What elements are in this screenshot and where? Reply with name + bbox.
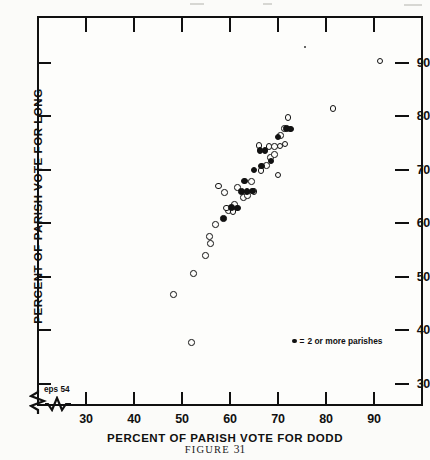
data-point bbox=[234, 205, 241, 212]
data-point bbox=[190, 270, 197, 277]
y-tick-label-40: 40 bbox=[397, 324, 430, 337]
data-point bbox=[258, 163, 265, 170]
x-tick-top-80 bbox=[325, 18, 327, 32]
y-tick-80 bbox=[37, 115, 51, 117]
figure-caption: FIGURE 31 bbox=[0, 443, 430, 455]
legend-filled-dot-icon bbox=[292, 339, 297, 344]
data-point bbox=[220, 215, 227, 222]
x-tick-label-40: 40 bbox=[117, 413, 151, 426]
data-point bbox=[262, 147, 269, 154]
data-point bbox=[248, 178, 255, 185]
data-point bbox=[330, 105, 337, 112]
data-point bbox=[202, 252, 209, 259]
x-tick-top-70 bbox=[277, 18, 279, 32]
x-tick-top-90 bbox=[373, 18, 375, 32]
data-point bbox=[287, 126, 294, 133]
legend-label: 2 or more parishes bbox=[308, 336, 383, 346]
x-tick-top-30 bbox=[85, 18, 87, 32]
x-tick-top-50 bbox=[181, 18, 183, 32]
y-tick-label-80: 80 bbox=[397, 110, 430, 123]
x-tick-30 bbox=[85, 392, 87, 406]
y-tick-60 bbox=[37, 222, 51, 224]
x-tick-label-90: 90 bbox=[357, 413, 391, 426]
legend-equals-sign: = bbox=[300, 336, 305, 346]
data-point bbox=[221, 189, 228, 196]
data-point bbox=[206, 233, 213, 240]
scan-artifact bbox=[404, 4, 422, 6]
legend: = 2 or more parishes bbox=[292, 336, 382, 346]
figure-caption-number: 31 bbox=[234, 443, 246, 455]
y-tick-90 bbox=[37, 62, 51, 64]
y-tick-40 bbox=[37, 329, 51, 331]
x-tick-label-60: 60 bbox=[213, 413, 247, 426]
scan-artifact bbox=[263, 3, 272, 5]
x-tick-50 bbox=[181, 392, 183, 406]
data-point bbox=[249, 188, 256, 195]
x-tick-40 bbox=[133, 392, 135, 406]
y-tick-50 bbox=[37, 276, 51, 278]
data-point bbox=[207, 240, 214, 247]
data-point bbox=[271, 151, 278, 158]
y-tick-70 bbox=[37, 169, 51, 171]
data-point bbox=[188, 339, 195, 346]
scan-artifact bbox=[190, 3, 204, 5]
data-point bbox=[241, 178, 248, 185]
data-point bbox=[212, 221, 219, 228]
y-tick-label-30: 30 bbox=[397, 378, 430, 391]
x-tick-80 bbox=[325, 392, 327, 406]
data-point bbox=[170, 291, 177, 298]
y-tick-label-70: 70 bbox=[397, 164, 430, 177]
x-tick-top-60 bbox=[229, 18, 231, 32]
y-tick-label-50: 50 bbox=[397, 271, 430, 284]
x-tick-60 bbox=[229, 392, 231, 406]
x-tick-label-80: 80 bbox=[309, 413, 343, 426]
x-tick-label-50: 50 bbox=[165, 413, 199, 426]
y-tick-label-90: 90 bbox=[397, 57, 430, 70]
figure-caption-prefix: FIGURE bbox=[185, 444, 230, 455]
figure-page: PERCENT OF PARISH VOTE FOR LONG 90 80 70… bbox=[0, 0, 430, 460]
x-tick-label-70: 70 bbox=[261, 413, 295, 426]
y-tick-label-60: 60 bbox=[397, 217, 430, 230]
x-tick-70 bbox=[277, 392, 279, 406]
axis-break-note: eps 54 bbox=[44, 385, 70, 394]
x-tick-90 bbox=[373, 392, 375, 406]
x-tick-top-40 bbox=[133, 18, 135, 32]
x-tick-label-30: 30 bbox=[69, 413, 103, 426]
x-axis-break-icon bbox=[45, 396, 71, 412]
